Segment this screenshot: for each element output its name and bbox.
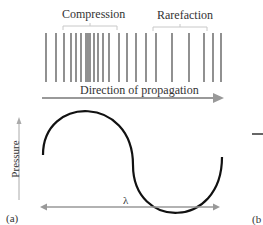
- pressure-wave-curve: [43, 111, 222, 213]
- rarefaction-bracket: [153, 24, 207, 31]
- wavelength-label: λ: [123, 194, 128, 206]
- direction-label: Direction of propagation: [80, 83, 199, 98]
- pressure-axis-label: Pressure: [9, 134, 21, 184]
- compression-bracket: [63, 23, 117, 30]
- compression-label: Compression: [62, 7, 125, 22]
- rarefaction-label: Rarefaction: [157, 8, 213, 23]
- wavefront-lines: [46, 33, 221, 82]
- panel-a-label: (a): [6, 212, 18, 224]
- panel-b-label: (b: [252, 213, 261, 225]
- diagram-canvas: [0, 0, 263, 225]
